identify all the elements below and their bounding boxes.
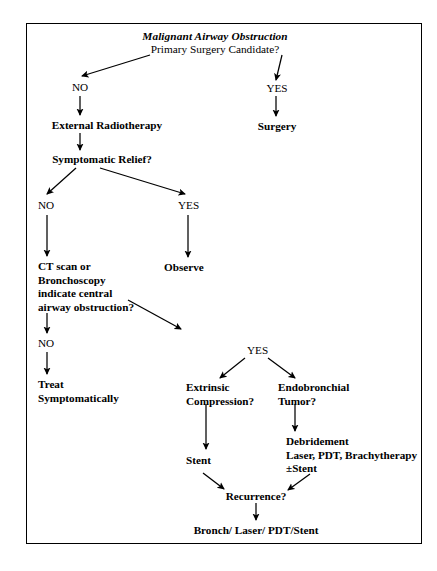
node-treat-symptomatically: Treat Symptomatically (38, 378, 119, 405)
label-yes-primary-surgery: YES (266, 82, 287, 95)
node-extrinsic-compression: Extrinsic Compression? (186, 381, 254, 408)
node-debridement: Debridement Laser, PDT, Brachytherapy ±S… (286, 435, 417, 476)
label-yes-symptomatic-relief: YES (178, 199, 199, 212)
label-no-primary-surgery: NO (72, 81, 88, 94)
label-no-central-obstruction: NO (38, 337, 54, 350)
node-external-radiotherapy: External Radiotherapy (52, 119, 162, 132)
label-yes-central-obstruction: YES (247, 344, 268, 357)
node-surgery: Surgery (258, 120, 297, 133)
node-observe: Observe (164, 261, 204, 274)
node-root-title: Malignant Airway Obstruction (142, 30, 288, 43)
node-endobronchial-tumor: Endobronchial Tumor? (278, 381, 349, 408)
node-stent: Stent (186, 454, 211, 467)
node-recurrence: Recurrence? (226, 490, 287, 503)
node-root-question: Primary Surgery Candidate? (151, 43, 279, 56)
node-symptomatic-relief: Symptomatic Relief? (52, 153, 152, 166)
node-ct-bronchoscopy: CT scan or Bronchoscopy indicate central… (38, 260, 134, 315)
label-no-symptomatic-relief: NO (38, 199, 54, 212)
flowchart-canvas: Malignant Airway Obstruction Primary Sur… (0, 0, 437, 571)
node-final-treatment: Bronch/ Laser/ PDT/Stent (194, 524, 319, 537)
